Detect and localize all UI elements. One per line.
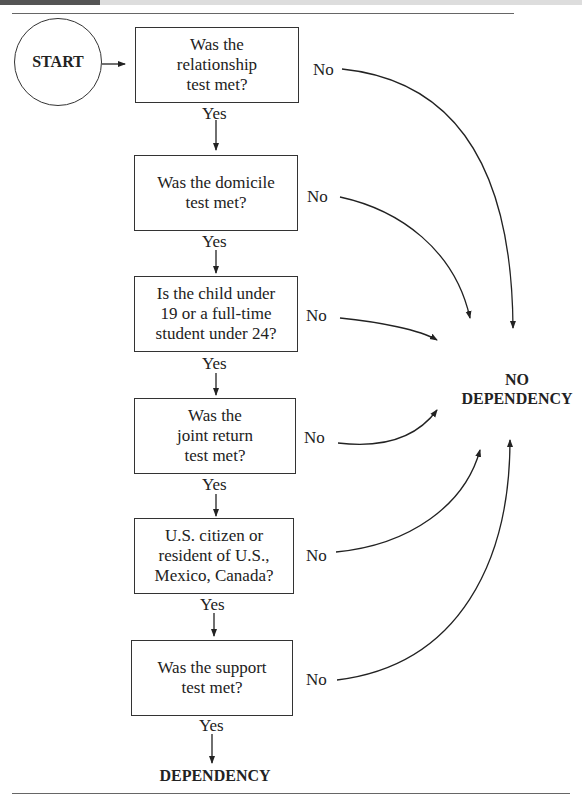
bottom-rule xyxy=(12,793,570,794)
start-node: START xyxy=(14,18,102,106)
decision-domicile-test: Was the domiciletest met? xyxy=(134,155,298,231)
no-label: No xyxy=(306,670,327,690)
start-label: START xyxy=(32,53,84,71)
yes-label: Yes xyxy=(202,232,227,252)
decision-citizenship-test: U.S. citizen orresident of U.S.,Mexico, … xyxy=(134,518,294,594)
question-line: test met? xyxy=(177,75,257,95)
decision-joint-return-test: Was thejoint returntest met? xyxy=(134,398,296,474)
question-line: student under 24? xyxy=(156,324,277,344)
question-line: Mexico, Canada? xyxy=(155,566,274,586)
question-line: Is the child under xyxy=(156,284,277,304)
question-line: joint return xyxy=(177,426,253,446)
yes-label: Yes xyxy=(202,354,227,374)
no-label: No xyxy=(304,428,325,448)
question-line: Was the support xyxy=(157,658,266,678)
decision-support-test: Was the supporttest met? xyxy=(131,640,293,716)
decision-relationship-test: Was therelationshiptest met? xyxy=(135,27,299,103)
dependency-outcome: DEPENDENCY xyxy=(145,766,285,785)
question-line: test met? xyxy=(157,193,275,213)
question-line: Was the domicile xyxy=(157,173,275,193)
decision-age-student-test: Is the child under19 or a full-timestude… xyxy=(134,276,298,352)
question-line: resident of U.S., xyxy=(155,546,274,566)
yes-label: Yes xyxy=(199,716,224,736)
question-line: relationship xyxy=(177,55,257,75)
question-line: Was the xyxy=(177,406,253,426)
no-label: No xyxy=(306,306,327,326)
question-line: 19 or a full-time xyxy=(156,304,277,324)
no-dependency-outcome: NO DEPENDENCY xyxy=(452,370,582,408)
question-line: test met? xyxy=(157,678,266,698)
yes-label: Yes xyxy=(202,104,227,124)
question-line: test met? xyxy=(177,446,253,466)
question-line: Was the xyxy=(177,35,257,55)
yes-label: Yes xyxy=(202,475,227,495)
question-line: U.S. citizen or xyxy=(155,526,274,546)
yes-label: Yes xyxy=(200,595,225,615)
outcome-line: DEPENDENCY xyxy=(452,389,582,408)
no-label: No xyxy=(313,60,334,80)
no-label: No xyxy=(307,187,328,207)
outcome-line: NO xyxy=(452,370,582,389)
no-label: No xyxy=(306,546,327,566)
